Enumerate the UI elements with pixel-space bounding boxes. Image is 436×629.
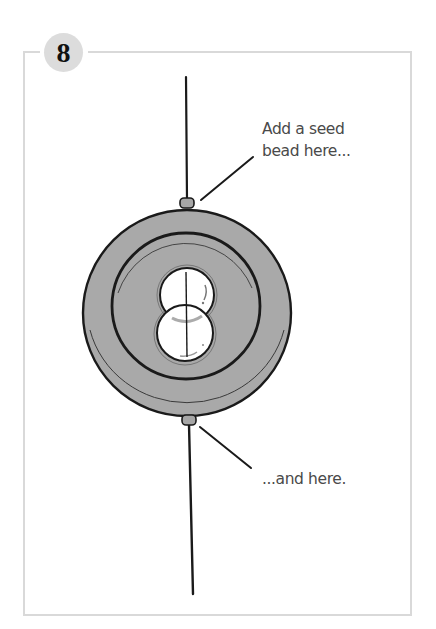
lower-pointer-line <box>200 427 251 468</box>
lower-thread <box>189 424 193 594</box>
upper-seed-bead <box>180 198 194 208</box>
callout-upper-seed-bead: Add a seed bead here... <box>262 118 351 162</box>
callout-upper-line2: bead here... <box>262 140 351 162</box>
pearl-thread <box>186 272 187 357</box>
upper-pointer-line <box>201 157 253 200</box>
callout-lower-seed-bead: ...and here. <box>262 468 346 490</box>
upper-thread <box>186 77 187 200</box>
instruction-panel: 8 <box>0 0 436 629</box>
callout-upper-line1: Add a seed <box>262 118 351 140</box>
callout-lower-line1: ...and here. <box>262 468 346 490</box>
pearls <box>154 265 217 365</box>
bead-illustration <box>0 0 436 629</box>
lower-pearl <box>157 305 213 361</box>
lower-seed-bead <box>182 415 196 425</box>
